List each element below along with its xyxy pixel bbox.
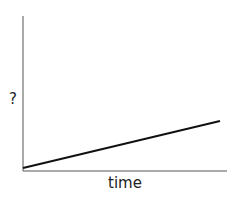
data-line (23, 121, 220, 168)
x-axis-label: time (108, 174, 142, 192)
y-axis-label: ? (9, 90, 17, 108)
chart-canvas (0, 0, 237, 202)
